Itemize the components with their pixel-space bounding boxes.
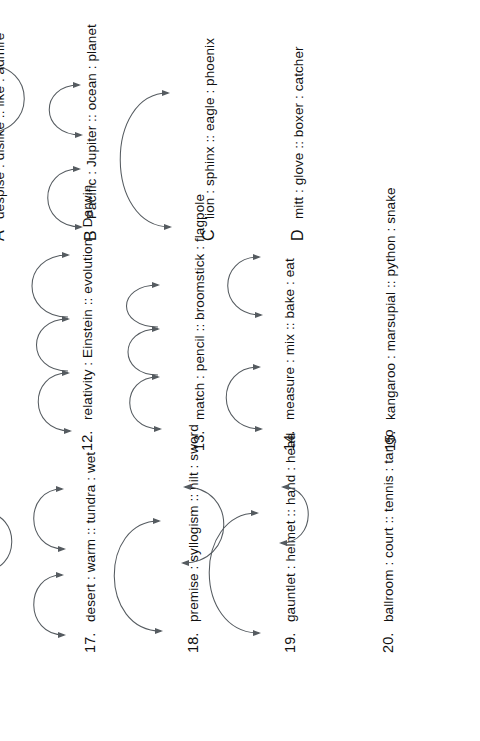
worksheet-page: 16.mouse : pelican :: fish : grain 17.de… — [0, 0, 480, 741]
arc-group-c — [85, 0, 205, 241]
item-number-12: 12. — [79, 425, 95, 451]
item-letter-b: B — [82, 224, 100, 241]
analogy-line-15: 15.kangaroo : marsupial :: python : snak… — [382, 187, 398, 451]
analogy-line-20: 20.ballroom : court :: tennis : tango — [380, 430, 396, 654]
analogy-line-b: BPacific : Jupiter :: ocean : planet — [82, 24, 100, 241]
item-text-b: Pacific : Jupiter :: ocean : planet — [84, 24, 99, 219]
analogy-line-17: 17.desert : warm :: tundra : wet — [82, 452, 98, 653]
item-text-19: gauntlet : helmet :: hand : head — [283, 433, 298, 622]
item-number-14: 14. — [281, 425, 297, 451]
item-letter-a: A — [0, 224, 8, 241]
arc-group-17 — [0, 353, 85, 653]
item-text-15: kangaroo : marsupial :: python : snake — [383, 187, 398, 420]
item-text-20: ballroom : court :: tennis : tango — [381, 430, 396, 623]
item-number-17: 17. — [82, 627, 98, 653]
page-rotation-wrapper: 16.mouse : pelican :: fish : grain 17.de… — [0, 0, 480, 741]
analogy-line-18: 18.premise : syllogism :: hilt : sword — [185, 424, 201, 653]
item-text-a: despise : dislike :: like : admire — [0, 33, 7, 219]
analogy-line-14: 14.measure : mix :: bake : eat — [281, 258, 297, 451]
analogy-line-a: Adespise : dislike :: like : admire — [0, 33, 8, 241]
analogy-line-19: 19.gauntlet : helmet :: hand : head — [282, 433, 298, 653]
item-text-17: desert : warm :: tundra : wet — [83, 452, 98, 622]
analogy-line-d: Dmitt : glove :: boxer : catcher — [289, 46, 307, 241]
item-number-19: 19. — [282, 627, 298, 653]
arc-group-12 — [0, 151, 82, 451]
arc-group-14 — [164, 151, 284, 451]
item-letter-c: C — [200, 224, 218, 241]
item-text-14: measure : mix :: bake : eat — [282, 258, 297, 420]
item-number-15: 15. — [382, 425, 398, 451]
arc-group-19 — [165, 353, 285, 653]
item-text-18: premise : syllogism :: hilt : sword — [186, 424, 201, 622]
item-number-18: 18. — [185, 627, 201, 653]
item-number-20: 20. — [380, 627, 396, 653]
arc-group-b — [0, 0, 87, 241]
item-number-13: 13. — [191, 425, 207, 451]
analogy-line-c: Clion : sphinx :: eagle : phoenix — [200, 38, 218, 241]
item-text-c: lion : sphinx :: eagle : phoenix — [202, 38, 217, 219]
item-letter-d: D — [289, 224, 307, 241]
item-text-d: mitt : glove :: boxer : catcher — [291, 46, 306, 219]
